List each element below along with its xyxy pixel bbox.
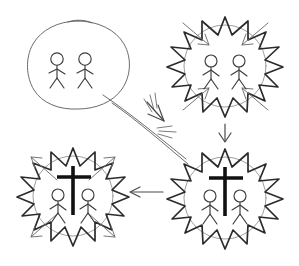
diagram-canvas [0,0,299,266]
stick-figure [203,55,219,89]
diagonal-arrowhead [147,102,164,121]
diagonal-collision-connector [103,93,188,164]
stick-figure [202,190,218,224]
downward-connector [219,124,231,142]
leftward-connector [130,187,163,197]
stick-figure [77,53,93,88]
agitated-group-panel [167,17,283,117]
cross-group-panel-left [17,148,129,246]
calm-group-panel [27,20,129,109]
stick-figure [49,53,65,88]
diagonal-line-lower [112,103,188,164]
impact-line [159,131,176,132]
figure-head [52,189,64,201]
figure-head [233,55,245,67]
impact-line [155,93,157,108]
impact-line [158,134,172,138]
cross-group-panel-right [167,149,283,249]
sketch-diagram-root [0,0,299,266]
figure-head [204,190,216,202]
figure-head [51,53,63,65]
impact-line [157,126,172,128]
figure-head [79,53,91,65]
diagonal-line-upper [103,95,186,159]
stick-figure [231,55,247,89]
figure-head [234,190,246,202]
stick-figure [232,190,248,224]
figure-head [205,55,217,67]
smooth-oval-outline [27,21,129,109]
figure-head [82,189,94,201]
